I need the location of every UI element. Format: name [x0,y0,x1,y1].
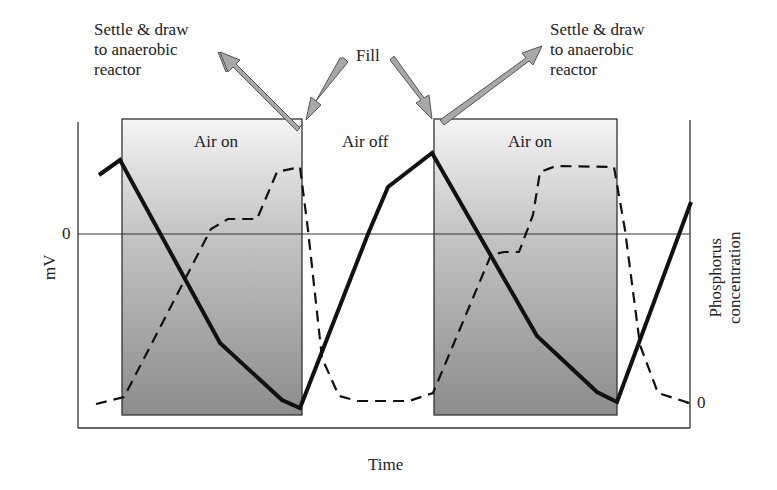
settle-right-line-3: reactor [550,60,644,80]
left-zero-tick-label: 0 [62,224,71,244]
air-on-phase-2-box [434,119,617,415]
settle-draw-right-label: Settle & draw to anaerobic reactor [550,20,644,80]
right-zero-tick-label: 0 [697,393,706,413]
settle-left-line-1: Settle & draw [94,20,188,40]
phosphorus-label-line-1: Phosphorus [706,231,725,324]
settle-left-line-3: reactor [94,60,188,80]
settle-right-line-1: Settle & draw [550,20,644,40]
arrow-fill-right [390,56,432,119]
sbr-cycle-diagram: Settle & draw to anaerobic reactor Fill … [0,0,777,490]
settle-right-line-2: to anaerobic [550,40,644,60]
air-on-label-2: Air on [508,132,552,152]
x-axis-label-time: Time [368,455,403,475]
air-on-label-1: Air on [194,132,238,152]
y-axis-label-mv: mV [40,255,59,281]
air-on-phase-1-box [122,119,302,415]
air-off-label: Air off [342,132,388,152]
phosphorus-label-line-2: concentration [725,231,744,324]
arrow-fill-left [306,58,348,120]
y-axis-label-phosphorus: Phosphorus concentration [706,231,744,324]
settle-left-line-2: to anaerobic [94,40,188,60]
fill-label: Fill [356,46,380,66]
arrow-settle-right [440,46,542,125]
settle-draw-left-label: Settle & draw to anaerobic reactor [94,20,188,80]
